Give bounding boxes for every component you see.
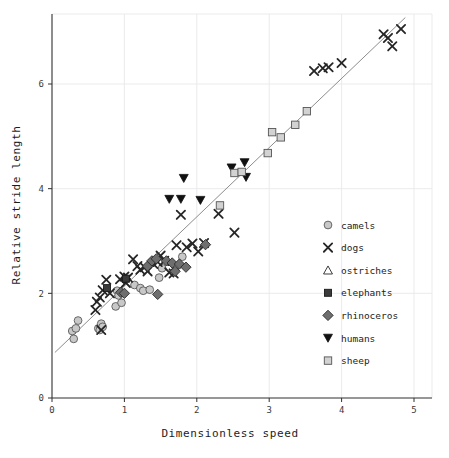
axis-layer [48, 14, 432, 402]
legend-marker-camels [324, 221, 332, 229]
legend-item-camels[interactable]: camels [324, 220, 375, 231]
data-point-elephants [104, 285, 111, 292]
data-point-sheep [231, 169, 238, 176]
data-point-sheep [277, 134, 284, 141]
data-point-sheep [292, 121, 299, 128]
x-tick-label: 1 [122, 405, 127, 415]
data-point-dogs [230, 228, 238, 236]
legend-item-rhinoceros[interactable]: rhinoceros [323, 310, 398, 321]
legend-item-ostriches[interactable]: ostriches [324, 265, 393, 276]
data-point-dogs [214, 210, 222, 218]
data-point-camels [74, 317, 82, 325]
legend-marker-sheep [324, 357, 331, 364]
y-tick-label: 0 [39, 393, 44, 403]
legend-label-humans: humans [341, 333, 375, 344]
legend-item-dogs[interactable]: dogs [324, 242, 364, 253]
x-tick-label: 0 [49, 405, 54, 415]
trendline-layer [55, 18, 405, 353]
x-tick-label: 5 [411, 405, 416, 415]
series-sheep [216, 108, 310, 210]
data-point-camels [155, 274, 163, 282]
y-tick-label: 4 [39, 184, 44, 194]
data-point-camels [70, 335, 78, 343]
data-point-dogs [388, 42, 396, 50]
legend-label-camels: camels [341, 220, 375, 231]
data-point-humans [196, 196, 205, 204]
data-point-humans [176, 195, 185, 203]
data-point-dogs [194, 247, 202, 255]
x-axis-title: Dimensionless speed [161, 427, 298, 440]
series-humans [165, 159, 251, 205]
data-point-dogs [172, 241, 180, 249]
plot-canvas: 0123450246 camelsdogsostricheselephantsr… [0, 0, 449, 458]
data-point-dogs [324, 63, 332, 71]
legend-label-rhinoceros: rhinoceros [341, 310, 398, 321]
legend-label-dogs: dogs [341, 242, 364, 253]
data-point-dogs [177, 211, 185, 219]
legend-label-sheep: sheep [341, 355, 370, 366]
legend-item-sheep[interactable]: sheep [324, 355, 370, 366]
y-tick-label: 6 [39, 79, 44, 89]
data-point-humans [165, 195, 174, 203]
data-point-dogs [96, 293, 104, 301]
data-point-camels [72, 325, 80, 333]
data-point-humans [179, 174, 188, 182]
data-point-camels [118, 299, 126, 307]
data-point-sheep [268, 128, 275, 135]
y-axis-title: Relative stride length [10, 126, 23, 285]
data-point-dogs [93, 298, 101, 306]
legend-marker-elephants [325, 289, 332, 296]
data-point-dogs [310, 67, 318, 75]
legend-marker-humans [324, 334, 333, 342]
series-camels [68, 253, 186, 343]
x-tick-label: 3 [266, 405, 271, 415]
scatter-chart-figure: 0123450246 camelsdogsostricheselephantsr… [0, 0, 449, 458]
legend-item-humans[interactable]: humans [324, 333, 376, 344]
legend-label-ostriches: ostriches [341, 265, 392, 276]
data-point-sheep [264, 149, 271, 156]
data-point-dogs [91, 306, 99, 314]
data-point-sheep [238, 168, 245, 175]
y-tick-label: 2 [39, 289, 44, 299]
data-point-dogs [102, 276, 110, 284]
data-point-sheep [303, 108, 310, 115]
data-point-elephants [122, 275, 129, 282]
trendline [55, 18, 405, 353]
data-point-humans [240, 159, 249, 167]
legend-marker-rhinoceros [323, 310, 333, 320]
data-point-dogs [397, 25, 405, 33]
x-tick-label: 4 [339, 405, 344, 415]
legend-marker-ostriches [324, 266, 333, 274]
data-point-dogs [384, 34, 392, 42]
legend-marker-dogs [324, 243, 332, 251]
legend-label-elephants: elephants [341, 287, 392, 298]
data-point-rhinoceros [153, 289, 163, 299]
data-point-sheep [216, 202, 223, 209]
x-tick-label: 2 [194, 405, 199, 415]
data-point-camels [146, 286, 154, 294]
